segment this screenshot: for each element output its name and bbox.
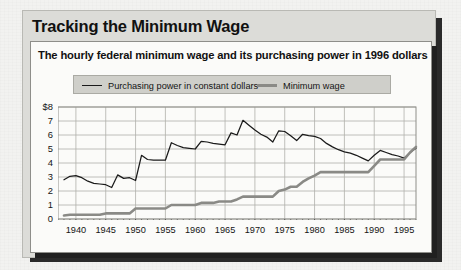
panel-drop-shadow-right — [432, 46, 437, 258]
x-axis-tick-label: 1960 — [180, 225, 210, 235]
y-axis-tick-label: 1 — [31, 199, 53, 210]
y-axis-tick-label: 4 — [31, 157, 53, 168]
x-axis-tick-label: 1940 — [61, 225, 91, 235]
y-axis-tick-label: 3 — [31, 171, 53, 182]
legend-item-purchasing-power: Purchasing power in constant dollars — [82, 76, 258, 95]
x-axis-tick-label: 1985 — [329, 225, 359, 235]
x-axis-tick-label: 1990 — [359, 225, 389, 235]
legend-item-minimum-wage: Minimum wage — [257, 76, 345, 95]
x-axis-tick-label: 1995 — [389, 225, 419, 235]
x-axis-tick-label: 1955 — [150, 225, 180, 235]
chart-plot — [58, 106, 418, 220]
chart-legend: Purchasing power in constant dollars Min… — [73, 75, 391, 94]
page-title: Tracking the Minimum Wage — [32, 17, 249, 36]
chart-subtitle: The hourly federal minimum wage and its … — [38, 49, 428, 61]
x-axis-tick-label: 1980 — [300, 225, 330, 235]
legend-label-minimum-wage: Minimum wage — [283, 81, 345, 91]
x-axis-tick-label: 1975 — [270, 225, 300, 235]
legend-label-purchasing-power: Purchasing power in constant dollars — [108, 81, 258, 91]
chart-series-line-purchasing-power — [64, 120, 416, 187]
x-axis-tick-label: 1965 — [210, 225, 240, 235]
legend-line-swatch-dark-icon — [82, 85, 102, 87]
x-axis-tick-label: 1970 — [240, 225, 270, 235]
x-axis-tick-label: 1945 — [91, 225, 121, 235]
y-axis-tick-label: 6 — [31, 129, 53, 140]
y-axis-tick-label: 0 — [31, 213, 53, 224]
y-axis-tick-label: $8 — [31, 101, 53, 112]
y-axis-tick-label: 5 — [31, 143, 53, 154]
legend-line-swatch-gray-icon — [257, 84, 277, 87]
panel-drop-shadow-bottom — [35, 253, 437, 258]
y-axis-tick-label: 7 — [31, 115, 53, 126]
y-axis-tick-label: 2 — [31, 185, 53, 196]
x-axis-tick-label: 1950 — [121, 225, 151, 235]
